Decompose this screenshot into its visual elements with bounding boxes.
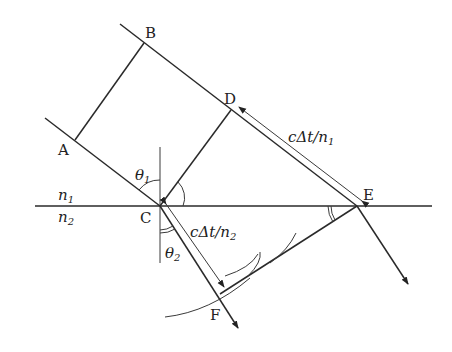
angle-arc-E-a [331,206,335,220]
label-n1: n1 [58,186,74,205]
label-theta1: θ1 [135,166,150,185]
angle-arc-theta2-b [160,226,173,230]
refracted-ray-E [357,206,408,284]
label-F: F [210,306,220,324]
label-B: B [145,24,156,42]
label-n2: n2 [58,208,74,227]
distance-arrow-CF [166,204,224,287]
refraction-diagram: B A D C E F n1 n2 θ1 θ2 cΔt/n1 cΔt/n2 [0,0,452,352]
label-CF-distance: cΔt/n2 [190,223,236,242]
angle-arc-right [178,182,185,206]
wavefront-C-D [160,110,231,206]
label-D: D [224,90,236,108]
label-theta2: θ2 [165,244,180,263]
wavefront-A-B [75,43,144,140]
label-E: E [363,186,374,204]
distance-arrow-DE [239,107,362,201]
label-DE-distance: cΔt/n1 [288,128,334,147]
wavefront-E-F [220,206,357,294]
label-A: A [57,141,69,159]
label-C: C [140,209,151,227]
wavelet-arc-C [165,278,250,317]
ray-B-E [120,24,357,206]
